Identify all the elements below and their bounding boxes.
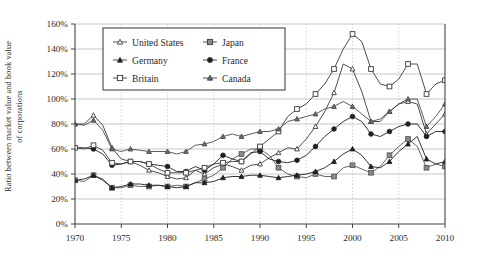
data-point-marker-open-triangle (239, 168, 244, 172)
data-point-marker-filled-circle (295, 158, 300, 163)
data-point-marker-shaded-triangle (350, 104, 355, 108)
data-point-marker-filled-triangle (128, 182, 133, 186)
data-point-marker-open-square (165, 170, 170, 175)
legend-label: Japan (222, 37, 244, 48)
x-tick-label: 1990 (251, 233, 270, 243)
data-point-marker-gray-square (369, 170, 374, 175)
data-point-marker-gray-square (387, 153, 392, 158)
x-axis-ticks: 197019751980198519901995200020052010 (66, 224, 455, 243)
data-point-marker-open-triangle (258, 162, 263, 166)
data-point-marker-shaded-triangle (258, 129, 263, 133)
legend-label: Britain (132, 73, 159, 84)
data-point-marker-open-square (332, 67, 337, 72)
data-point-marker-filled-triangle (239, 174, 244, 178)
data-point-marker-filled-circle (207, 57, 212, 62)
data-point-marker-shaded-triangle (91, 118, 96, 122)
data-point-marker-gray-square (221, 165, 226, 170)
data-point-marker-open-square (184, 170, 189, 175)
data-point-marker-filled-triangle (350, 147, 355, 151)
data-point-marker-filled-triangle (276, 175, 281, 179)
data-point-marker-filled-triangle (313, 169, 318, 173)
data-point-marker-open-square (202, 165, 207, 170)
data-point-marker-filled-circle (369, 132, 374, 137)
chart-legend: United StatesJapanGermanyFranceBritainCa… (103, 28, 285, 90)
data-point-marker-open-square (313, 92, 318, 97)
data-point-marker-open-square (369, 67, 374, 72)
y-tick-label: 0% (56, 219, 69, 229)
legend-label: United States (132, 37, 184, 48)
data-point-marker-filled-circle (221, 153, 226, 158)
y-axis-ticks: 0%20%40%60%80%100%120%140%160% (47, 19, 75, 229)
data-point-marker-open-square (117, 75, 122, 80)
data-point-marker-filled-triangle (221, 175, 226, 179)
data-point-marker-gray-square (350, 163, 355, 168)
x-tick-label: 2000 (343, 233, 362, 243)
x-tick-label: 1985 (205, 233, 224, 243)
x-tick-label: 1975 (112, 233, 131, 243)
data-point-marker-open-triangle (276, 150, 281, 154)
y-tick-label: 20% (51, 194, 68, 204)
data-point-marker-filled-circle (424, 134, 429, 139)
data-point-marker-open-square (110, 160, 115, 165)
data-point-marker-open-square (91, 143, 96, 148)
data-point-marker-filled-triangle (295, 173, 300, 177)
data-point-marker-open-triangle (147, 168, 152, 172)
data-point-marker-open-square (147, 162, 152, 167)
y-tick-label: 120% (47, 69, 69, 79)
data-point-marker-open-square (424, 92, 429, 97)
data-point-marker-filled-circle (332, 127, 337, 132)
data-point-marker-gray-square (239, 152, 244, 157)
x-tick-label: 1980 (158, 233, 177, 243)
data-point-marker-filled-circle (313, 144, 318, 149)
data-point-marker-filled-circle (165, 164, 170, 169)
x-tick-label: 2010 (436, 233, 455, 243)
data-point-marker-shaded-triangle (332, 104, 337, 108)
data-point-marker-open-triangle (350, 67, 355, 71)
legend-label: Canada (222, 73, 252, 84)
data-point-marker-shaded-triangle (147, 149, 152, 153)
legend-label: France (222, 55, 248, 66)
legend-label: Germany (132, 55, 168, 66)
data-point-marker-shaded-triangle (110, 147, 115, 151)
data-point-marker-shaded-triangle (295, 117, 300, 121)
data-point-marker-open-square (239, 159, 244, 164)
data-point-marker-filled-circle (276, 159, 281, 164)
data-point-marker-gray-square (424, 165, 429, 170)
data-point-marker-shaded-triangle (128, 147, 133, 151)
legend-box (103, 28, 285, 90)
data-point-marker-open-triangle (91, 113, 96, 117)
x-tick-label: 1995 (297, 233, 316, 243)
data-point-marker-filled-circle (387, 129, 392, 134)
data-point-marker-open-square (221, 160, 226, 165)
data-point-marker-filled-triangle (147, 183, 152, 187)
data-point-marker-shaded-triangle (165, 149, 170, 153)
data-point-marker-gray-square (332, 174, 337, 179)
data-point-marker-open-square (128, 159, 133, 164)
data-point-marker-open-triangle (313, 124, 318, 128)
data-point-marker-shaded-triangle (406, 97, 411, 101)
chart-figure: Ratio between market value and book valu… (0, 0, 490, 263)
data-point-marker-open-square (350, 32, 355, 37)
data-point-marker-shaded-triangle (221, 134, 226, 138)
y-tick-label: 40% (51, 169, 68, 179)
data-point-marker-shaded-triangle (239, 134, 244, 138)
y-tick-label: 60% (51, 144, 68, 154)
data-point-marker-gray-square (207, 39, 212, 44)
data-point-marker-shaded-triangle (184, 149, 189, 153)
y-tick-label: 80% (51, 119, 68, 129)
data-point-marker-filled-circle (258, 149, 263, 154)
y-tick-label: 160% (47, 19, 69, 29)
data-point-marker-open-square (406, 62, 411, 67)
data-point-marker-open-square (295, 107, 300, 112)
data-point-marker-shaded-triangle (202, 142, 207, 146)
data-point-marker-gray-square (276, 165, 281, 170)
data-point-marker-open-square (387, 84, 392, 89)
line-chart-plot: 0%20%40%60%80%100%120%140%160% 197019751… (0, 0, 490, 263)
data-point-marker-filled-circle (406, 122, 411, 127)
data-point-marker-open-square (258, 144, 263, 149)
y-tick-label: 140% (47, 44, 69, 54)
data-point-marker-open-triangle (332, 90, 337, 94)
data-point-marker-filled-triangle (258, 173, 263, 177)
data-point-marker-filled-circle (350, 114, 355, 119)
data-point-marker-filled-triangle (424, 157, 429, 161)
